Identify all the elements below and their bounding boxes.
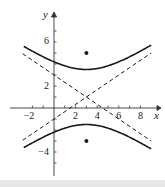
focus-point: [84, 51, 88, 55]
y-tick-label: −4: [38, 146, 49, 157]
y-tick-label: 6: [44, 35, 49, 46]
x-axis-label: x: [153, 109, 159, 121]
bottom-strip: [0, 180, 165, 187]
y-axis-label: y: [42, 8, 48, 20]
x-tick-label: 8: [138, 110, 143, 121]
hyperbola-upper-branch: [24, 45, 151, 69]
x-tick-label: 6: [116, 110, 121, 121]
y-tick-label: 2: [44, 80, 49, 91]
y-axis-arrow-icon: [52, 12, 57, 17]
x-tick-label: 2: [73, 110, 78, 121]
x-tick-labels: −2 2 4 6 8: [24, 110, 143, 121]
asymptotes: [23, 53, 152, 141]
focus-point: [84, 139, 88, 143]
asymptote-line: [23, 54, 152, 141]
x-tick-label: −2: [24, 110, 35, 121]
axes: [10, 12, 161, 176]
hyperbola-branches: [24, 45, 151, 149]
hyperbola-chart: −2 2 4 6 8 6 2 −4 x y: [0, 0, 165, 187]
asymptote-line: [23, 53, 152, 140]
x-tick-label: 4: [95, 110, 100, 121]
